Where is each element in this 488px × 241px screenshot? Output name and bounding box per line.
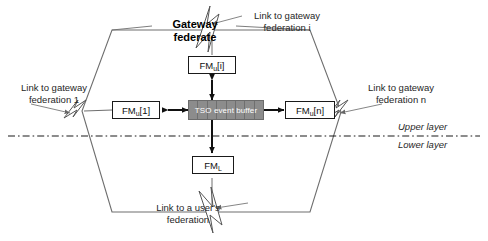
tso-event-buffer-label: TSO event buffer [195, 106, 257, 115]
link-label-users-federation: Link to a user's federation [126, 202, 250, 225]
node-fm-l[interactable]: FML [192, 156, 234, 174]
upper-layer-label: Upper layer [398, 121, 478, 133]
link-label-gateway-federation-1: Link to gateway federation 1 [2, 82, 106, 105]
node-fm-l-label: FML [204, 160, 222, 171]
node-fm-u-1-label: FMu[1] [122, 105, 150, 116]
node-fm-u-i[interactable]: FMu[i] [188, 56, 236, 74]
link-label-gateway-federation-i: Link to gateway federation i [232, 10, 342, 33]
leader-line-left [31, 104, 70, 113]
node-fm-u-i-label: FMu[i] [199, 60, 224, 71]
lower-layer-label: Lower layer [398, 139, 478, 151]
diagram-canvas: Gateway federate FMu[i] FMu[1] FMu[n] FM… [0, 0, 488, 241]
page-title: Gateway federate [150, 18, 240, 44]
node-fm-u-n[interactable]: FMu[n] [285, 101, 335, 119]
tso-event-buffer[interactable]: TSO event buffer [188, 100, 264, 120]
leader-line-right [340, 104, 382, 113]
node-fm-u-n-label: FMu[n] [296, 105, 324, 116]
leader-line-title-left [112, 26, 152, 30]
node-fm-u-1[interactable]: FMu[1] [112, 101, 160, 119]
link-label-gateway-federation-n: Link to gateway federation n [346, 82, 456, 105]
stub-line-left [84, 110, 112, 111]
